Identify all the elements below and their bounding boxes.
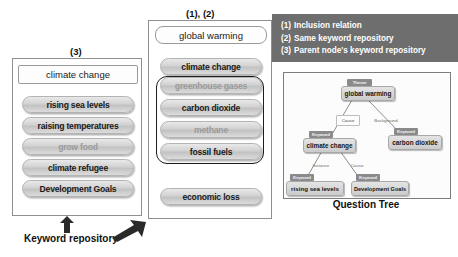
- legend-item-1-text: Inclusion relation: [294, 20, 362, 33]
- tree-caption: Question Tree: [283, 199, 449, 210]
- legend-item-2: (2) Same keyword repository: [281, 33, 451, 46]
- keyword-pill-carbon-dioxide[interactable]: carbon dioxide: [160, 99, 262, 116]
- legend-item-1: (1) Inclusion relation: [281, 20, 451, 33]
- tree-node-climate-change[interactable]: climate change: [303, 138, 356, 153]
- keyword-repository-to-panel-arrow: [112, 218, 148, 242]
- tree-node-development-goals[interactable]: Development Goals: [351, 181, 409, 196]
- legend-item-3: (3) Parent node's keyword repository: [281, 45, 451, 58]
- keyword-pill-greenhouse-gases[interactable]: greenhouse gases: [160, 77, 262, 94]
- left-panel-header: climate change: [18, 65, 138, 84]
- tree-node-sea-chip: Keyword: [290, 174, 314, 181]
- legend-item-2-number: (2): [281, 33, 291, 46]
- tree-edge-label-cause-root: Cause: [336, 115, 360, 126]
- tree-node-root[interactable]: global warming: [341, 86, 395, 101]
- keyword-pill-rising-sea-levels[interactable]: rising sea levels: [22, 96, 134, 113]
- keyword-pill-fossil-fuels[interactable]: fossil fuels: [160, 143, 262, 160]
- legend-item-1-number: (1): [281, 20, 291, 33]
- legend-item-3-number: (3): [281, 45, 291, 58]
- keyword-repository-label: Keyword repository: [24, 233, 118, 244]
- middle-panel-header: global warming: [155, 26, 267, 44]
- keyword-pill-climate-refugee[interactable]: climate refugee: [22, 159, 134, 176]
- keyword-pill-economic-loss[interactable]: economic loss: [160, 188, 262, 205]
- figure-canvas: (3) climate change rising sea levels rai…: [0, 0, 458, 257]
- keyword-pill-raising-temperatures[interactable]: raising temperatures: [22, 117, 134, 134]
- tree-edge-label-cause-climate: Cause: [346, 161, 368, 170]
- tree-node-carbon-dioxide[interactable]: carbon dioxide: [388, 135, 442, 150]
- left-panel-tag: (3): [70, 46, 82, 57]
- legend-item-2-text: Same keyword repository: [294, 33, 394, 46]
- keyword-repository-up-arrow: [58, 216, 76, 234]
- keyword-pill-climate-change[interactable]: climate change: [160, 58, 262, 75]
- middle-panel-tag: (1), (2): [186, 8, 215, 19]
- legend-box: (1) Inclusion relation (2) Same keyword …: [272, 14, 458, 62]
- tree-node-root-chip: Theme: [347, 79, 372, 86]
- question-tree-panel: Theme global warming Cause Background Ke…: [283, 72, 451, 199]
- global-warming-panel: global warming climate change greenhouse…: [148, 20, 272, 219]
- keyword-pill-grow-food[interactable]: grow food: [22, 138, 134, 155]
- keyword-pill-development-goals[interactable]: Development Goals: [22, 180, 134, 197]
- keyword-pill-methane[interactable]: methane: [160, 121, 262, 138]
- tree-node-rising-sea-levels[interactable]: rising sea levels: [286, 181, 344, 196]
- legend-item-3-text: Parent node's keyword repository: [294, 45, 426, 58]
- tree-node-climate-chip: Keyword: [309, 131, 333, 138]
- tree-edge-label-instance: Instance: [309, 161, 333, 170]
- tree-edge-label-background: Background: [372, 116, 400, 125]
- tree-node-devgoals-chip: Keyword: [356, 174, 380, 181]
- keyword-repository-panel: climate change rising sea levels raising…: [12, 58, 142, 216]
- tree-node-carbon-chip: Keyword: [394, 128, 418, 135]
